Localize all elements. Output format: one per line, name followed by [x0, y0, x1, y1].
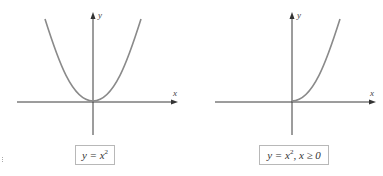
- left-equation-exponent: 2: [105, 148, 109, 156]
- left-y-label: y: [97, 10, 102, 20]
- right-equation-box: y = x2, x ≥ 0: [259, 145, 329, 165]
- right-graph: x y: [215, 10, 376, 135]
- right-y-arrow-icon: [290, 12, 295, 19]
- left-equation-box: y = x2: [75, 145, 115, 165]
- left-equation-text: y = x: [82, 149, 105, 161]
- right-equation-condition: , x ≥ 0: [293, 149, 320, 161]
- right-y-label: y: [296, 10, 301, 20]
- left-x-label: x: [172, 88, 177, 98]
- right-x-label: x: [369, 88, 374, 98]
- left-x-arrow-icon: [171, 100, 178, 105]
- left-y-arrow-icon: [91, 12, 96, 19]
- left-graph: x y: [17, 10, 178, 135]
- right-half-parabola-curve: [292, 19, 340, 101]
- right-equation-text: y = x: [267, 149, 290, 161]
- edge-mark: [2, 157, 6, 162]
- right-x-arrow-icon: [369, 100, 376, 105]
